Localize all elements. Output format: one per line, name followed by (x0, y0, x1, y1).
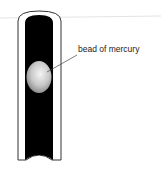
bead-label: bead of mercury (78, 44, 139, 54)
tube-diagram (0, 0, 161, 169)
mercury-bead (27, 61, 52, 93)
